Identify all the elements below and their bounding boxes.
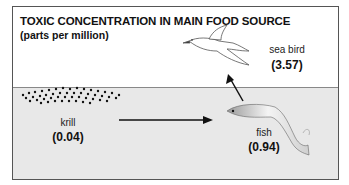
krill-swarm-icon — [22, 87, 120, 104]
fish-value: (0.94) — [234, 140, 294, 154]
sea-bird-icon — [183, 25, 249, 65]
sea-bird-value: (3.57) — [257, 58, 317, 72]
sea-bird-label: sea bird — [257, 44, 317, 55]
krill-value: (0.04) — [38, 130, 98, 144]
arrow-fish-to-bird-icon — [226, 74, 243, 101]
krill-label: krill — [43, 117, 93, 128]
diagram-frame: TOXIC CONCENTRATION IN MAIN FOOD SOURCE … — [12, 6, 339, 180]
food-chain-illustration — [13, 7, 339, 180]
fish-label: fish — [239, 127, 289, 138]
arrow-krill-to-fish-icon — [119, 116, 213, 124]
